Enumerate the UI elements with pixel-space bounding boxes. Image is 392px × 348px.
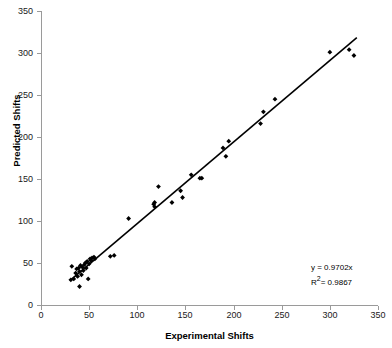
data-point: [77, 284, 82, 289]
data-point: [223, 154, 228, 159]
data-point: [126, 216, 131, 221]
data-point: [273, 97, 278, 102]
r-squared-line: R2= 0.9867: [311, 273, 353, 288]
data-point: [170, 200, 175, 205]
data-point: [352, 53, 357, 58]
data-point: [226, 139, 231, 144]
data-point: [180, 195, 185, 200]
trend-line: [70, 38, 357, 281]
data-point: [156, 184, 161, 189]
data-point-group: [68, 47, 356, 289]
data-point: [69, 264, 74, 269]
scatter-chart: 050100150200250300350 050100150200250300…: [0, 0, 392, 348]
r-squared-value: = 0.9867: [321, 278, 352, 287]
regression-annotation: y = 0.9702x R2= 0.9867: [311, 262, 353, 288]
data-point: [258, 121, 263, 126]
data-point: [347, 47, 352, 52]
data-point: [327, 50, 332, 55]
plot-area: [0, 0, 392, 348]
data-point: [261, 109, 266, 114]
data-point: [112, 253, 117, 258]
data-point: [108, 254, 113, 259]
regression-equation: y = 0.9702x: [311, 262, 353, 273]
data-point: [86, 277, 91, 282]
